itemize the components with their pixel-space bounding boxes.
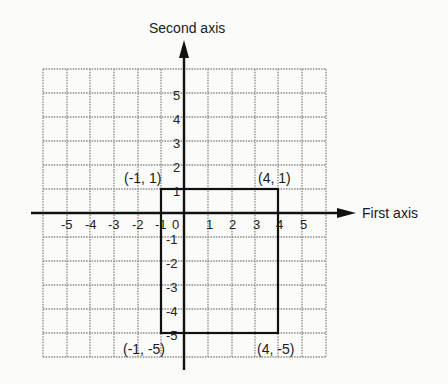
x-tick: 3 xyxy=(253,217,260,232)
y-tick: -3 xyxy=(166,280,178,295)
x-tick: 2 xyxy=(229,217,236,232)
corner-label-bottom-left: (-1, -5) xyxy=(123,341,165,357)
y-tick: 3 xyxy=(173,136,180,151)
corner-label-bottom-right: (4, -5) xyxy=(257,341,294,357)
x-tick: -3 xyxy=(108,217,120,232)
second-axis xyxy=(179,40,189,370)
y-tick: 4 xyxy=(173,112,180,127)
x-tick: -1 xyxy=(155,217,167,232)
x-tick: -5 xyxy=(61,217,73,232)
x-axis-label: First axis xyxy=(362,205,418,221)
corner-labels: (-1, 1) (4, 1) (-1, -5) (4, -5) xyxy=(123,170,294,357)
y-tick: -5 xyxy=(166,328,178,343)
x-tick: 1 xyxy=(206,217,213,232)
y-tick: -4 xyxy=(166,304,178,319)
coordinate-plane: Second axis First axis -5 -4 -3 -2 -1 0 … xyxy=(0,0,448,384)
corner-label-top-left: (-1, 1) xyxy=(124,170,161,186)
y-tick: 2 xyxy=(173,160,180,175)
arrow-up-icon xyxy=(179,40,189,58)
corner-label-top-right: (4, 1) xyxy=(258,170,291,186)
first-axis xyxy=(31,208,356,218)
y-tick: -1 xyxy=(166,232,178,247)
x-tick: -2 xyxy=(132,217,144,232)
y-tick-labels: 1 2 3 4 5 -1 -2 -3 -4 -5 xyxy=(166,88,180,343)
y-axis-label: Second axis xyxy=(149,20,225,36)
x-tick: -4 xyxy=(85,217,97,232)
x-tick: 5 xyxy=(300,217,307,232)
x-tick: 0 xyxy=(172,217,179,232)
x-tick: 4 xyxy=(276,217,283,232)
y-tick: -2 xyxy=(166,256,178,271)
y-tick: 1 xyxy=(173,184,180,199)
arrow-right-icon xyxy=(337,208,356,218)
y-tick: 5 xyxy=(173,88,180,103)
